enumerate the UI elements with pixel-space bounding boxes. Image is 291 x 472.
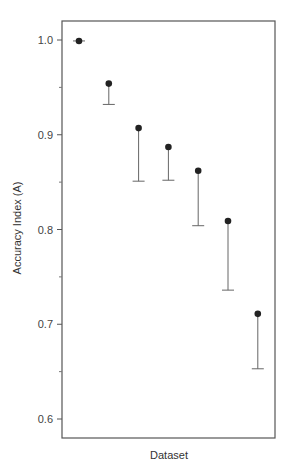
plot-border	[62, 21, 275, 438]
data-point-group	[133, 125, 145, 181]
data-point-marker	[76, 38, 83, 45]
y-tick-label: 0.8	[38, 224, 53, 236]
data-point-marker	[135, 125, 142, 132]
y-tick-label: 0.7	[38, 318, 53, 330]
y-tick-label: 0.6	[38, 413, 53, 425]
data-point-marker	[195, 167, 202, 174]
data-point-group	[222, 218, 234, 290]
y-tick-label: 1.0	[38, 34, 53, 46]
data-points	[73, 38, 264, 369]
chart: 0.60.70.80.91.0 Accuracy Index (A) Datas…	[0, 0, 291, 472]
data-point-marker	[254, 311, 261, 318]
plot-frame	[62, 21, 275, 438]
data-point-group	[162, 144, 174, 180]
x-axis-label: Dataset	[150, 449, 188, 461]
data-point-group	[252, 311, 264, 369]
y-axis-label: Accuracy Index (A)	[11, 182, 23, 275]
data-point-marker	[225, 218, 232, 225]
data-point-marker	[106, 80, 113, 87]
data-point-group	[73, 38, 85, 45]
data-point-group	[103, 80, 115, 104]
y-axis-ticks: 0.60.70.80.91.0	[38, 34, 62, 425]
data-point-group	[192, 167, 204, 225]
data-point-marker	[165, 144, 172, 151]
y-tick-label: 0.9	[38, 129, 53, 141]
